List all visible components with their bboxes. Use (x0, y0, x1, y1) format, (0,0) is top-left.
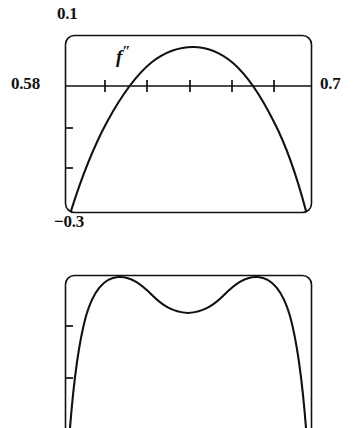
y-axis-max-label: 0.1 (57, 5, 78, 22)
second-derivative-curve-label: f″ (116, 44, 131, 66)
function-curve (70, 277, 306, 428)
function-plot-canvas (0, 240, 361, 428)
second-derivative-plot-canvas (0, 0, 361, 232)
figure-root: 0.1 0.58 0.7 −0.3 f″ 1 f (0, 0, 361, 428)
plot-frame (66, 276, 312, 428)
y-axis-ticks (66, 128, 74, 168)
second-derivative-panel: 0.1 0.58 0.7 −0.3 f″ (0, 0, 361, 232)
double-prime-glyph: ″ (122, 43, 130, 59)
x-axis-min-label: 0.58 (11, 75, 40, 92)
y-axis-min-label: −0.3 (54, 213, 84, 230)
x-axis-max-label: 0.7 (320, 75, 341, 92)
second-derivative-curve (71, 47, 306, 211)
y-axis-ticks (66, 326, 74, 378)
function-panel: 1 f (0, 240, 361, 428)
